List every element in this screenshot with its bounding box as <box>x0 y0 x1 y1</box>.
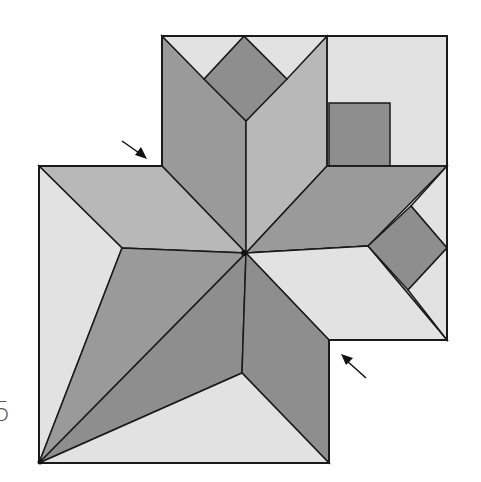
arrow-bottom-right-icon <box>341 354 366 378</box>
center-point <box>241 250 247 256</box>
arrow-top-left-icon <box>122 141 147 159</box>
figure-label: 5 <box>0 397 11 427</box>
small-square <box>329 103 390 166</box>
quilt-block-diagram <box>0 0 481 482</box>
corner-point <box>38 460 43 465</box>
